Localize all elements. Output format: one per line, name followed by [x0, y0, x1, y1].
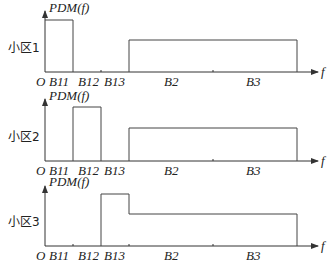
- band-label-b11: B11: [49, 74, 69, 89]
- cell-label: 小区2: [8, 130, 40, 144]
- band-label-b13: B13: [104, 163, 125, 178]
- pdm-diagram: PDM(f) 小区1 O B11 B12 B13 B2 B3 f PDM(f) …: [0, 0, 336, 278]
- band-label-b3: B3: [246, 74, 261, 89]
- cell-label: 小区3: [8, 215, 40, 229]
- panel-cell-3: PDM(f) 小区3 O B11 B12 B13 B2 B3 f: [8, 174, 327, 263]
- origin-label: O: [36, 163, 46, 178]
- band-label-b13: B13: [104, 248, 125, 263]
- band-label-b3: B3: [246, 163, 261, 178]
- x-axis-label: f: [321, 238, 327, 253]
- band-label-b2: B2: [164, 248, 179, 263]
- low-band-b2-b3: [129, 40, 297, 72]
- origin-label: O: [36, 248, 46, 263]
- band-label-b2: B2: [164, 74, 179, 89]
- high-band-b11: [45, 20, 73, 72]
- origin-label: O: [36, 74, 46, 89]
- y-axis-label: PDM(f): [48, 88, 89, 103]
- high-band-b13-then-low: [101, 194, 297, 246]
- band-label-b2: B2: [164, 163, 179, 178]
- x-axis-label: f: [321, 153, 327, 168]
- y-axis-label: PDM(f): [48, 174, 89, 189]
- band-label-b3: B3: [246, 248, 261, 263]
- panel-cell-1: PDM(f) 小区1 O B11 B12 B13 B2 B3 f: [8, 0, 327, 89]
- cell-label: 小区1: [8, 41, 40, 55]
- panel-cell-2: PDM(f) 小区2 O B11 B12 B13 B2 B3 f: [8, 88, 327, 178]
- band-label-b11: B11: [49, 248, 69, 263]
- band-label-b12: B12: [78, 248, 99, 263]
- band-label-b12: B12: [78, 74, 99, 89]
- high-band-b12: [73, 107, 101, 161]
- band-label-b13: B13: [104, 74, 125, 89]
- y-axis-label: PDM(f): [48, 0, 89, 15]
- x-axis-label: f: [321, 64, 327, 79]
- low-band-b2-b3: [129, 128, 297, 161]
